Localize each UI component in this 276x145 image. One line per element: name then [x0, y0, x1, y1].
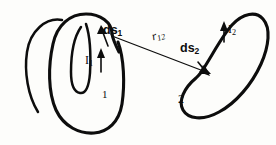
label-ds2: ds2 [180, 42, 199, 55]
label-current-2-sub: 2 [232, 28, 236, 37]
label-ds2-base: ds [180, 41, 195, 55]
figure-canvas: ds1 I1 1 r12 ds2 I2 2 [0, 0, 276, 145]
label-ds1-sub: 1 [118, 28, 123, 38]
label-ds1: ds1 [103, 24, 122, 37]
label-loop-2: 2 [178, 93, 184, 105]
label-ds2-sub: 2 [195, 46, 200, 56]
label-current-1: I1 [85, 54, 93, 66]
label-current-2: I2 [228, 23, 236, 35]
current-direction-arrow-1 [97, 48, 105, 72]
label-current-1-sub: 1 [89, 59, 93, 68]
label-ds1-base: ds [103, 23, 118, 37]
diagram-svg [0, 0, 276, 145]
label-loop-1: 1 [102, 89, 108, 100]
